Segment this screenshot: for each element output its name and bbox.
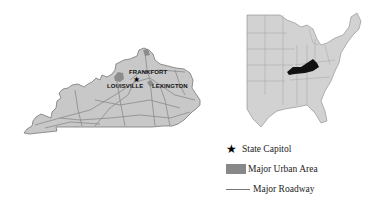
urban-area-swatch xyxy=(226,164,246,174)
legend-label: State Capitol xyxy=(242,144,291,154)
city-label-lexington: LEXINGTON xyxy=(152,83,188,89)
roadway-line-icon xyxy=(226,189,250,190)
city-label-louisville: LOUISVILLE xyxy=(107,83,143,89)
legend-label: Major Urban Area xyxy=(248,164,318,174)
star-icon: ★ xyxy=(226,143,240,155)
legend-item-roadway: Major Roadway xyxy=(226,184,314,194)
us-locator-map xyxy=(235,5,370,135)
city-label-frankfort: FRANKFORT xyxy=(129,69,167,75)
legend-item-state-capitol: ★ State Capitol xyxy=(226,143,291,155)
legend-item-urban-area: Major Urban Area xyxy=(226,164,318,174)
kentucky-map: ★ xyxy=(0,0,215,145)
legend-label: Major Roadway xyxy=(253,184,314,194)
